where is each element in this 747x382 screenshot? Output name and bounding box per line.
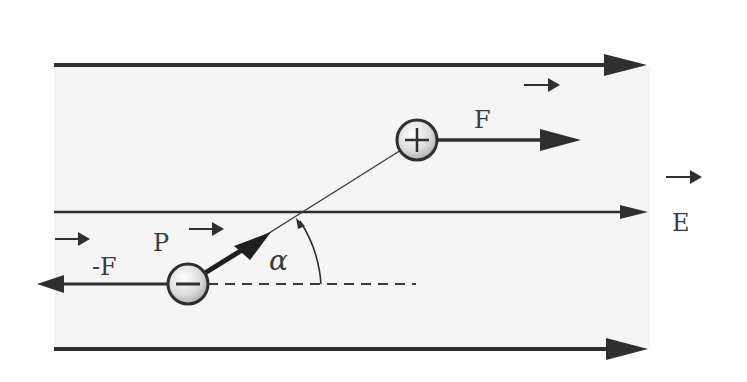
negative-charge <box>168 264 208 304</box>
angle-label: α <box>269 244 288 277</box>
field-label: E <box>672 209 690 237</box>
positive-charge <box>397 120 437 160</box>
force-label-positive: F <box>474 106 491 134</box>
dipole-moment-label: P <box>153 229 169 257</box>
field-region <box>54 66 650 349</box>
vector-arrow-E <box>666 170 702 184</box>
dipole-diagram: F -F P α E <box>0 0 747 382</box>
force-label-negative: -F <box>92 253 117 281</box>
